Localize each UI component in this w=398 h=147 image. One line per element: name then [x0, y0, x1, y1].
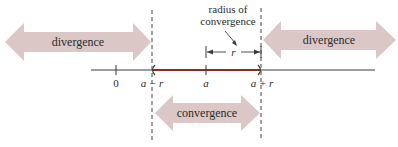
right-divergence-label: divergence [303, 33, 355, 47]
tick-label-a: a [203, 77, 209, 89]
left-divergence-label: divergence [52, 35, 104, 49]
right-divergence-arrow: divergence [263, 21, 396, 59]
radius-annotation: radius of convergence r [200, 3, 261, 58]
radius-of-convergence-diagram: divergence divergence convergence 0 a − … [0, 0, 398, 147]
radius-dimension-left-arrowhead [207, 50, 213, 55]
radius-annotation-line1: radius of [209, 3, 248, 15]
convergence-label: convergence [177, 106, 237, 120]
convergence-arrow: convergence [155, 95, 260, 131]
tick-label-a-plus-r: a + r [251, 77, 274, 89]
tick-label-zero: 0 [113, 77, 119, 89]
radius-dimension-right-arrowhead [254, 50, 260, 55]
radius-annotation-line2: convergence [200, 15, 255, 27]
radius-symbol: r [231, 46, 236, 58]
left-divergence-arrow: divergence [5, 23, 151, 61]
tick-label-a-minus-r: a − r [141, 77, 164, 89]
